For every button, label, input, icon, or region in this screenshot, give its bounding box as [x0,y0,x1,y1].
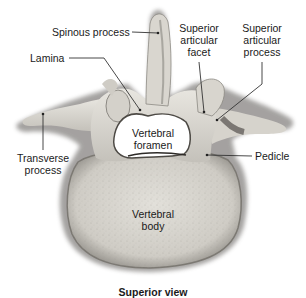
label-line: articular [179,34,219,46]
label-line: body [132,220,174,232]
label-transverse-process: Transverse process [17,152,69,176]
label-vertebral-body: Vertebral body [132,208,174,232]
diagram-caption: Superior view [119,286,188,298]
label-line: Vertebral [132,127,174,139]
label-line: Superior [242,22,282,34]
label-vertebral-foramen: Vertebral foramen [132,127,174,151]
label-line: facet [179,46,219,58]
label-pedicle: Pedicle [255,150,289,162]
label-line: articular [242,34,282,46]
label-line: process [17,164,69,176]
label-lamina: Lamina [30,52,64,64]
label-superior-articular-facet: Superior articular facet [179,22,219,58]
spinous-process [146,14,171,106]
label-line: Superior [179,22,219,34]
label-line: foramen [132,139,174,151]
label-line: Vertebral [132,208,174,220]
label-line: Transverse [17,152,69,164]
vertebra-diagram: Spinous process Lamina Superior articula… [0,0,306,298]
label-spinous-process: Spinous process [52,26,130,38]
label-line: process [242,46,282,58]
label-superior-articular-process: Superior articular process [242,22,282,58]
